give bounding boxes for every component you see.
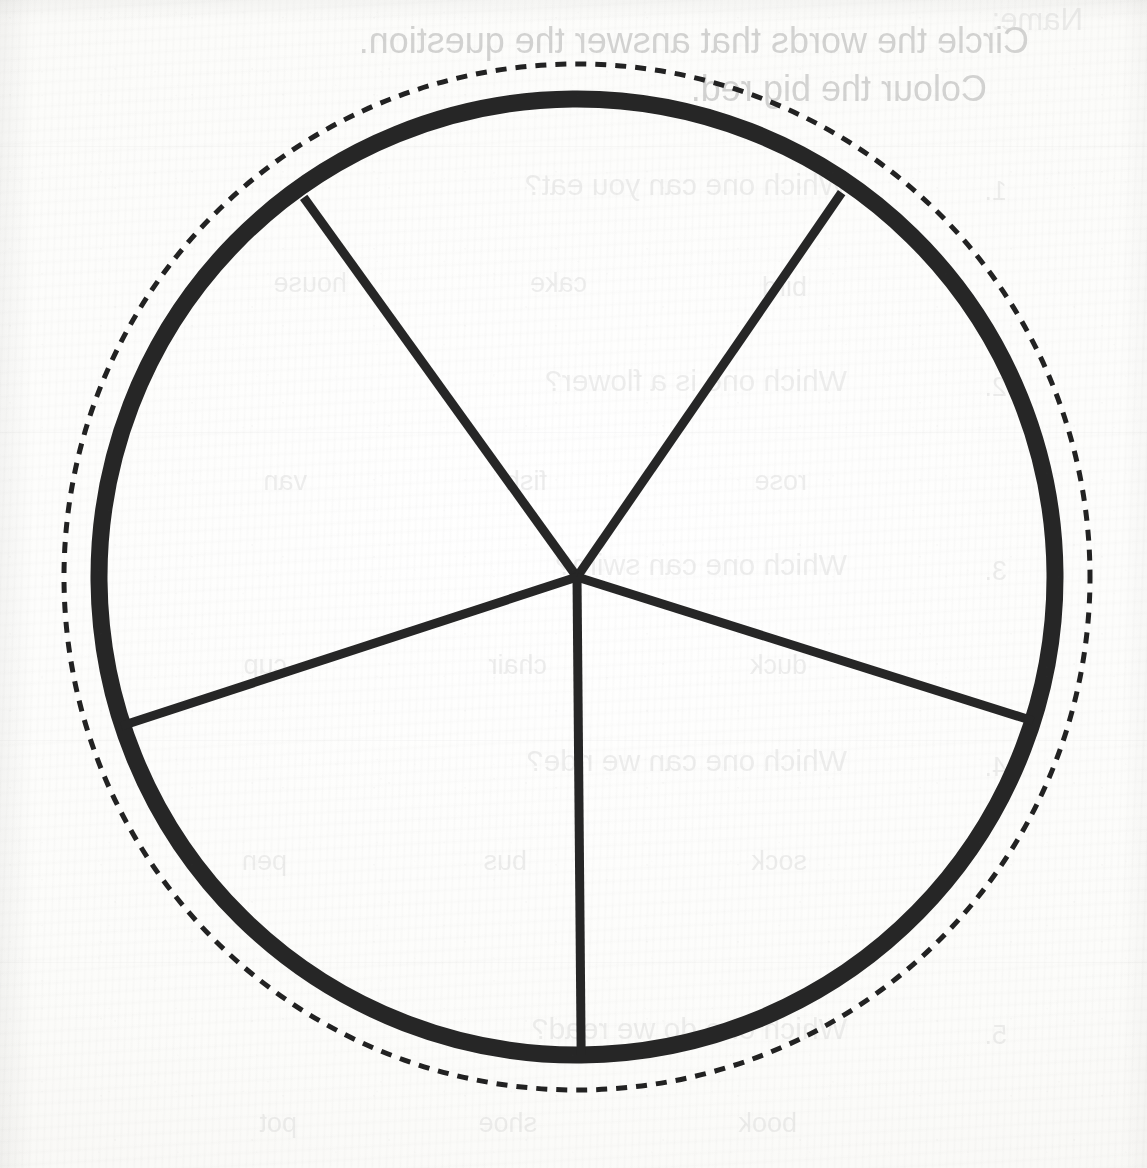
radius-right	[577, 573, 1033, 725]
scanned-page: Name:Circle the words that answer the qu…	[0, 0, 1147, 1168]
radius-bottom	[577, 577, 581, 1055]
radius-upper-left	[304, 195, 577, 579]
radius-upper-right	[574, 193, 845, 577]
radius-left	[120, 577, 578, 726]
circle-fifths-figure	[0, 0, 1147, 1168]
